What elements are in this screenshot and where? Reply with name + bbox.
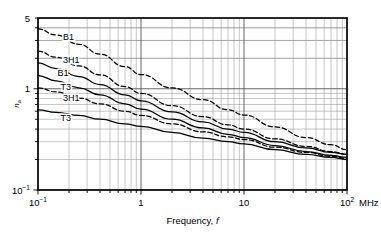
y-tick-label: 5 xyxy=(25,13,30,24)
plot-frame xyxy=(38,18,347,190)
x-axis-title: Frequency, f xyxy=(166,215,219,226)
tick-labels-layer: 10−11101025110−1MHz xyxy=(12,13,379,209)
series-label-b1: B1 xyxy=(63,32,74,42)
curves-layer xyxy=(38,29,347,160)
x-tick-label: 102 xyxy=(340,196,355,208)
grid-minor-layer xyxy=(38,18,347,190)
series-line-b1-solid xyxy=(38,63,347,154)
y-tick-label: 10−1 xyxy=(12,184,30,196)
y-tick-label: 1 xyxy=(25,83,30,94)
series-label-b1-solid: B1 xyxy=(58,68,69,78)
x-tick-label: 10 xyxy=(239,197,250,208)
series-label-3h1-upper: 3H1 xyxy=(63,55,80,65)
log-log-chart: 10−11101025110−1MHz B1B13H13H1B1B1T3T33H… xyxy=(0,0,381,237)
series-label-3h1-lower: 3H1 xyxy=(63,93,80,103)
x-tick-label: 1 xyxy=(138,197,143,208)
series-label-t3-upper: T3 xyxy=(60,82,71,92)
grid-major-layer xyxy=(38,18,347,190)
axis-frame-layer xyxy=(38,18,347,190)
x-axis-unit-label: MHz xyxy=(359,197,379,208)
curve-labels-layer: B1B13H13H1B1B1T3T33H13H1T3T3 xyxy=(58,32,80,123)
chart-container: 10−11101025110−1MHz B1B13H13H1B1B1T3T33H… xyxy=(0,0,381,237)
series-line-3h1-upper xyxy=(38,51,347,154)
x-tick-label: 10−1 xyxy=(29,196,47,208)
series-label-t3-lower: T3 xyxy=(60,113,71,123)
y-axis-title: na xyxy=(12,100,22,108)
